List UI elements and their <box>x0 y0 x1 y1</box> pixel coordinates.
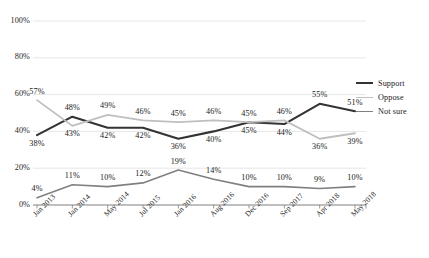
series-line-oppose <box>37 100 355 139</box>
point-label: 45% <box>238 126 260 135</box>
y-tick-label: 80% <box>0 52 30 61</box>
point-label: 46% <box>273 107 295 116</box>
y-tick-label: 40% <box>0 126 30 135</box>
point-label: 42% <box>97 131 119 140</box>
point-label: 36% <box>167 142 189 151</box>
point-label: 46% <box>132 107 154 116</box>
line-chart: 0%20%40%60%80%100% Jan 2013Jan 2014May 2… <box>0 0 429 258</box>
y-tick-label: 100% <box>0 16 30 25</box>
point-label: 46% <box>203 107 225 116</box>
point-label: 39% <box>344 137 366 146</box>
point-label: 49% <box>97 101 119 110</box>
legend-line-swatch <box>356 82 373 84</box>
legend-line-swatch <box>356 111 373 112</box>
legend-item-not-sure[interactable]: Not sure <box>356 104 429 118</box>
point-label: 45% <box>167 109 189 118</box>
legend-item-label: Not sure <box>378 107 407 116</box>
legend-item-label: Oppose <box>378 93 404 102</box>
point-label: 45% <box>238 109 260 118</box>
point-label: 10% <box>273 173 295 182</box>
point-label: 10% <box>97 173 119 182</box>
point-label: 10% <box>344 173 366 182</box>
point-label: 19% <box>167 157 189 166</box>
point-label: 9% <box>309 175 331 184</box>
legend-item-label: Support <box>378 79 405 88</box>
legend-item-oppose[interactable]: Oppose <box>356 90 429 104</box>
point-label: 48% <box>61 103 83 112</box>
y-tick-label: 0% <box>0 200 30 209</box>
point-label: 43% <box>61 129 83 138</box>
y-tick-label: 20% <box>0 163 30 172</box>
point-label: 11% <box>61 171 83 180</box>
point-label: 14% <box>203 166 225 175</box>
point-label: 10% <box>238 173 260 182</box>
chart-legend: SupportOpposeNot sure <box>356 76 429 118</box>
point-label: 36% <box>309 142 331 151</box>
point-label: 40% <box>203 135 225 144</box>
series-lines <box>37 100 355 198</box>
point-label: 38% <box>26 139 48 148</box>
point-label: 4% <box>26 184 48 193</box>
legend-item-support[interactable]: Support <box>356 76 429 90</box>
legend-line-swatch <box>356 97 373 98</box>
point-label: 42% <box>132 131 154 140</box>
point-label: 44% <box>273 128 295 137</box>
point-label: 12% <box>132 169 154 178</box>
point-label: 55% <box>309 90 331 99</box>
point-label: 57% <box>26 87 48 96</box>
